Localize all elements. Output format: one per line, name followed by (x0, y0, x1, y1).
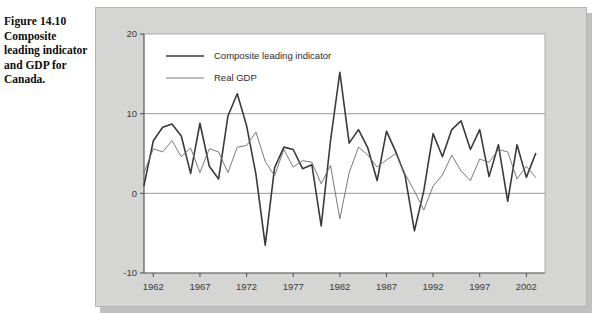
legend-label: Composite leading indicator (214, 50, 331, 61)
x-tick-label: 1982 (329, 281, 350, 292)
figure-root: Figure 14.10 Composite leading indicator… (0, 0, 597, 320)
line-chart: -100102019621967197219771982198719921997… (96, 8, 588, 308)
plot-area: -100102019621967197219771982198719921997… (96, 8, 588, 308)
x-tick-label: 1967 (189, 281, 210, 292)
legend-label: Real GDP (214, 72, 257, 83)
figure-panel: -100102019621967197219771982198719921997… (95, 7, 587, 307)
x-tick-label: 1997 (469, 281, 490, 292)
x-tick-label: 1977 (283, 281, 304, 292)
x-tick-label: 1962 (143, 281, 164, 292)
x-tick-label: 1972 (236, 281, 257, 292)
y-tick-label: 20 (126, 28, 137, 39)
x-tick-label: 1987 (376, 281, 397, 292)
figure-number: Figure 14.10 (4, 15, 66, 27)
figure-caption: Figure 14.10 Composite leading indicator… (4, 14, 90, 87)
figure-title: Composite leading indicator and GDP for … (4, 30, 87, 86)
x-tick-label: 1992 (423, 281, 444, 292)
y-tick-label: 0 (132, 188, 137, 199)
y-tick-label: -10 (123, 267, 137, 278)
x-tick-label: 2002 (516, 281, 537, 292)
y-tick-label: 10 (126, 108, 137, 119)
